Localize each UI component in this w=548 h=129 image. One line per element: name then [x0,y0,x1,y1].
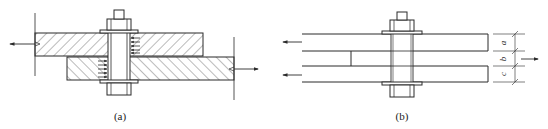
top-nut-b [390,20,414,31]
bolt-head-bottom [107,83,131,95]
bolt-tip-top-b [397,12,407,20]
bolt-head-bottom-b [390,85,414,97]
dimension-label-a: a [498,40,508,45]
diagram-canvas: a b c [0,0,548,129]
lower-plate [67,57,234,80]
figure-a [10,10,258,100]
caption-b: (b) [396,110,409,122]
caption-a: (a) [114,110,126,122]
bolt-shank-b [391,32,413,84]
dimension-label-c: c [498,72,508,76]
dimension-label-b: b [498,56,508,61]
figure-b [283,12,538,97]
top-nut [107,19,131,30]
bolt-tip-top [114,10,124,19]
